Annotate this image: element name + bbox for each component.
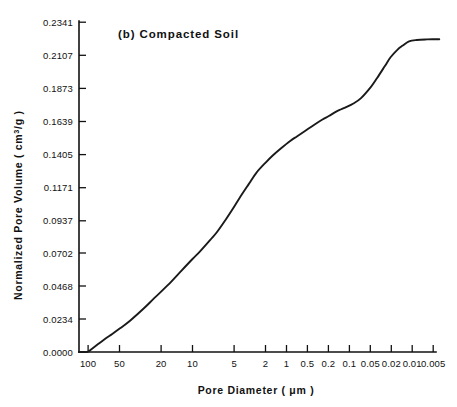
x-tick-label: 2 — [263, 358, 268, 369]
y-tick-label: 0.0937 — [43, 215, 73, 226]
x-axis-title-tail: ) — [307, 384, 315, 396]
y-tick-label: 0.0234 — [43, 314, 73, 325]
x-tick-label: 0.02 — [382, 358, 401, 369]
y-tick-label: 0.1405 — [43, 149, 73, 160]
chart-figure: Normalized Pore Volume ( cm3/g ) Pore Di… — [0, 0, 457, 407]
x-tick-label: 100 — [80, 358, 96, 369]
pore-volume-line-chart: Normalized Pore Volume ( cm3/g ) Pore Di… — [0, 0, 457, 407]
y-axis-tick-labels: 0.0000 0.0234 0.0468 0.0702 0.0937 0.117… — [43, 17, 73, 358]
x-axis-title-unit: μm — [289, 384, 306, 396]
y-tick-label: 0.2341 — [43, 17, 73, 28]
y-axis-title-tail: /g ) — [12, 110, 24, 129]
pore-volume-curve — [79, 39, 439, 352]
y-tick-label: 0.0468 — [43, 281, 73, 292]
x-tick-label: 20 — [156, 358, 167, 369]
y-axis-title: Normalized Pore Volume ( cm3/g ) — [12, 110, 25, 300]
x-tick-label: 0.2 — [322, 358, 336, 369]
x-axis-title: Pore Diameter ( μm ) — [198, 384, 315, 396]
y-axis-title-main: Normalized Pore Volume ( cm — [12, 134, 24, 300]
x-axis-title-main: Pore Diameter ( — [198, 384, 290, 396]
y-tick-label: 0.0000 — [43, 347, 73, 358]
y-tick-label: 0.0702 — [43, 248, 73, 259]
x-tick-label: 10 — [187, 358, 198, 369]
x-tick-label: 0.05 — [361, 358, 380, 369]
y-tick-label: 0.1639 — [43, 116, 73, 127]
x-tick-label: 50 — [114, 358, 125, 369]
y-tick-label: 0.2107 — [43, 50, 73, 61]
x-tick-label: 1 — [284, 358, 289, 369]
x-tick-label: 0.01 — [403, 358, 422, 369]
y-tick-label: 0.1171 — [44, 182, 73, 193]
x-tick-label: 0.1 — [343, 358, 357, 369]
x-tick-label: 0.5 — [301, 358, 315, 369]
x-tick-label: 0.005 — [421, 358, 446, 369]
x-tick-label: 5 — [231, 358, 236, 369]
panel-title: (b) Compacted Soil — [118, 28, 239, 40]
y-axis-ticks — [79, 22, 86, 352]
x-axis-tick-labels: 100 50 20 10 5 2 1 0.5 0.2 0.1 0.05 0.02… — [80, 358, 446, 369]
x-axis-ticks — [88, 345, 433, 352]
y-tick-label: 0.1873 — [43, 83, 73, 94]
